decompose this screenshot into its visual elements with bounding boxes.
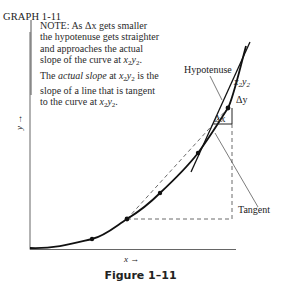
hypotenuse-label: Hypotenuse [184,64,232,75]
tangent-leader [215,133,258,207]
point-x2y2-label: x2y2 [234,76,250,89]
curve-point [90,237,94,241]
delta-x-label: Δx [214,113,225,124]
curve-point-x1y1 [125,217,130,222]
x-axis-label: x → [124,254,139,264]
curve-point-x2y2 [226,106,231,111]
graph-figure [0,0,281,286]
curve-point [158,191,162,195]
figure-caption: Figure 1–11 [0,269,281,282]
curve-point [196,151,200,155]
curve [30,46,246,248]
delta-y-label: Δy [236,94,247,105]
hypotenuse-leader [210,76,222,100]
tangent-label: Tangent [238,204,270,215]
y-axis-label: y → [14,115,24,130]
